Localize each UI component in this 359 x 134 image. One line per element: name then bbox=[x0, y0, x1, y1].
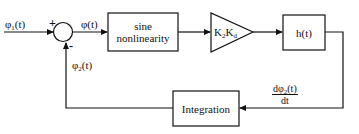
deriv-num-suffix: (t) bbox=[287, 83, 296, 94]
feedback-suffix: (t) bbox=[82, 59, 92, 71]
error-signal-label: φ(t) bbox=[81, 18, 98, 30]
gain-k1: K bbox=[214, 26, 222, 38]
gain-k2-sub: d bbox=[233, 32, 237, 40]
input-signal-label: φ1(t) bbox=[5, 18, 25, 30]
minus-sign: - bbox=[69, 40, 73, 52]
block-diagram: φ1(t) + - φ(t) φ2(t) sine nonlinearity K… bbox=[0, 0, 359, 134]
filter-block: h(t) bbox=[283, 15, 325, 50]
gain-block-label: K2Kd bbox=[214, 26, 237, 38]
derivative-denominator: dt bbox=[272, 95, 298, 106]
plus-sign: + bbox=[49, 17, 56, 29]
feedback-path-left bbox=[66, 43, 173, 108]
derivative-label: dφ2(t) dt bbox=[272, 83, 298, 106]
sine-nonlinearity-block: sine nonlinearity bbox=[108, 13, 178, 51]
feedback-signal-label: φ2(t) bbox=[72, 59, 92, 71]
integration-label: Integration bbox=[182, 103, 230, 115]
filter-label: h(t) bbox=[296, 27, 312, 39]
integration-block: Integration bbox=[173, 91, 239, 126]
sine-line2: nonlinearity bbox=[116, 32, 169, 44]
input-suffix: (t) bbox=[15, 18, 25, 30]
sine-line1: sine bbox=[134, 20, 152, 32]
deriv-num-base: dφ bbox=[273, 83, 284, 94]
derivative-numerator: dφ2(t) bbox=[272, 83, 298, 95]
